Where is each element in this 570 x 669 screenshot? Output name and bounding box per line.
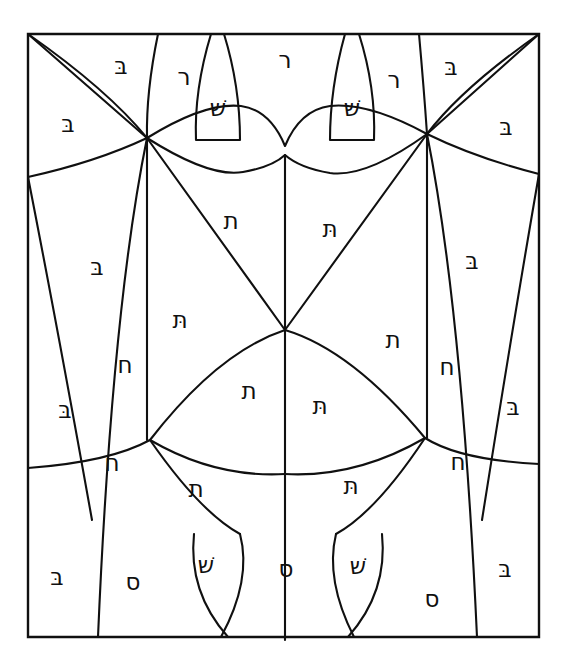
inner-sweep-left — [98, 138, 147, 637]
low-arc-left — [28, 440, 150, 468]
hebrew-letter-bet-dagesh: בּ — [444, 54, 457, 80]
hebrew-letter-tav: ת — [241, 378, 256, 404]
diagonal-top-left — [28, 34, 147, 138]
hebrew-letter-chet: ח — [450, 449, 465, 475]
hebrew-letter-chet: ח — [117, 352, 132, 378]
cup-curve-right — [285, 330, 425, 438]
shin-capsule-left-top — [196, 34, 240, 140]
hebrew-letter-chet: ח — [439, 354, 454, 380]
hebrew-letter-tav: ת — [385, 327, 400, 353]
inner-sweep-right — [427, 134, 477, 637]
hebrew-letter-bet-dagesh: בּ — [114, 53, 127, 79]
rib-left-inner — [147, 34, 158, 138]
outer-sweep-left — [28, 177, 92, 520]
hebrew-letter-tav: ת — [188, 476, 203, 502]
hebrew-letter-samekh: ס — [126, 569, 141, 595]
hebrew-letter-bet-dagesh: בּ — [58, 397, 71, 423]
hebrew-letter-resh: ר — [279, 47, 292, 73]
scallop-upper — [147, 106, 427, 146]
shin-pod-left-bottom-a — [221, 534, 243, 637]
hebrew-letter-tav-dagesh: תּ — [312, 393, 327, 419]
outer-frame — [28, 34, 539, 637]
hebrew-letter-bet-dagesh: בּ — [61, 111, 74, 137]
hebrew-letter-shin-dot: שׁ — [198, 552, 215, 578]
hebrew-letter-tav-dagesh: תּ — [172, 307, 187, 333]
diagonal-top-right — [427, 34, 539, 134]
cup-curve-left — [150, 330, 285, 440]
arc-left-lower-outer — [28, 138, 147, 177]
hebrew-letter-shin-dot: שׁ — [344, 95, 361, 121]
hebrew-letter-bet-dagesh: בּ — [50, 564, 63, 590]
shin-pod-right-bottom-b — [348, 534, 383, 637]
outer-sweep-right — [482, 174, 539, 520]
hebrew-letter-samekh: ס — [279, 556, 294, 582]
hebrew-letter-resh: ר — [178, 64, 191, 90]
low-arc-right — [425, 438, 539, 464]
hebrew-letter-shin-dot: שׁ — [210, 95, 227, 121]
shin-pod-right-bottom-a — [333, 534, 354, 637]
shin-capsule-right-top — [330, 34, 374, 140]
hebrew-letter-bet-dagesh: בּ — [498, 556, 511, 582]
hebrew-letter-bet-dagesh: בּ — [506, 394, 519, 420]
hebrew-letter-bet-dagesh: בּ — [465, 248, 478, 274]
shin-pod-left-bottom-b — [193, 534, 228, 637]
hebrew-letter-bet-dagesh: בּ — [90, 254, 103, 280]
hebrew-letter-bet-dagesh: בּ — [499, 114, 512, 140]
hebrew-letter-shin-dot: שׁ — [350, 553, 367, 579]
hebrew-letter-tav: ת — [223, 208, 238, 234]
v-arm-right — [285, 134, 427, 330]
hebrew-letter-tav-dagesh: תּ — [343, 473, 358, 499]
hebrew-letter-resh: ר — [388, 67, 401, 93]
hebrew-letter-chet: ח — [104, 450, 119, 476]
letter-panel-diagram: בּרררבּשׁשׁבּבּתתּבּבּתּתחחתתּבּבּחחתתּש… — [0, 0, 570, 669]
arc-right-lower-outer — [427, 134, 539, 174]
hebrew-letter-samekh: ס — [425, 586, 440, 612]
hebrew-letter-tav-dagesh: תּ — [322, 216, 337, 242]
figure-root: בּרררבּשׁשׁבּבּתתּבּבּתּתחחתתּבּבּחחתתּש… — [0, 0, 570, 669]
rib-right-inner — [419, 34, 427, 134]
